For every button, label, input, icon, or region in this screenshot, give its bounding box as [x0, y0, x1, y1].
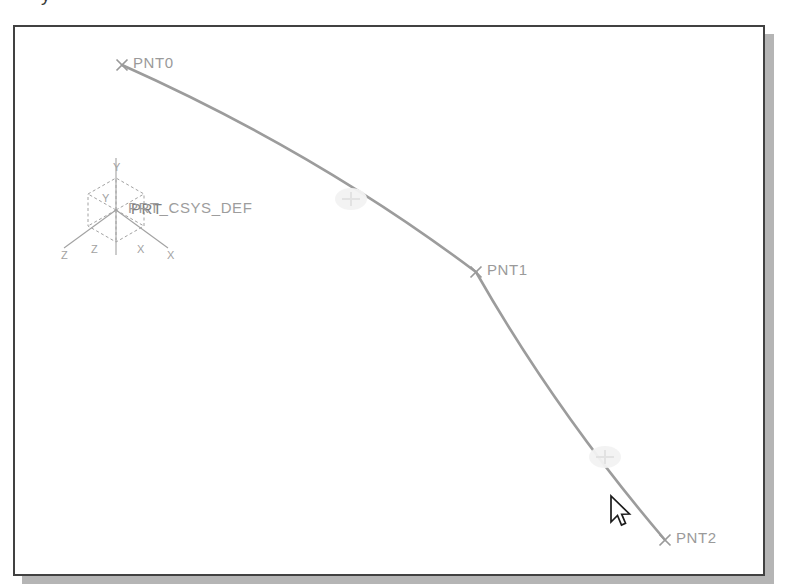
csys-edge — [64, 210, 116, 248]
datum-curve[interactable] — [122, 65, 665, 540]
clipped-text-glyph: y — [41, 0, 63, 6]
datum-point-marker-pnt1[interactable] — [471, 267, 482, 278]
datum-point-label-pnt1: PNT1 — [487, 261, 528, 278]
csys-axis-letter-y-1: Y — [102, 192, 109, 204]
csys-axis-letter-x-5: X — [137, 243, 144, 255]
curve-highlight-markers — [335, 188, 621, 468]
csys-axis-letter-z-2: Z — [61, 249, 68, 261]
graphics-window[interactable]: PNT0PNT1PNT2 PRT PRT_CSYS_DEF YYZZXX — [13, 25, 765, 576]
csys-axis-letter-y-0: Y — [113, 161, 120, 173]
csys-axis-letter-x-4: X — [167, 249, 174, 261]
curve-segment-pnt1-pnt2[interactable] — [476, 272, 665, 540]
graphics-canvas[interactable] — [15, 27, 763, 574]
datum-point-markers[interactable] — [117, 60, 671, 546]
datum-point-label-pnt2: PNT2 — [676, 529, 717, 546]
csys-axis-letter-z-3: Z — [91, 243, 98, 255]
datum-point-label-pnt0: PNT0 — [133, 54, 174, 71]
datum-point-marker-pnt2[interactable] — [660, 535, 671, 546]
csys-name-label: PRT_CSYS_DEF — [128, 199, 252, 216]
curve-segment-pnt0-pnt1[interactable] — [122, 65, 476, 272]
datum-point-marker-pnt0[interactable] — [117, 60, 128, 71]
